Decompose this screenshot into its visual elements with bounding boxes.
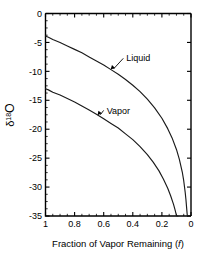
y-tick-label: -15 (29, 95, 42, 105)
y-tick-label: -10 (29, 67, 42, 77)
annotation-label: Vapor (107, 106, 130, 116)
y-tick-label: -5 (34, 38, 42, 48)
svg-text:Fraction of Vapor Remaining (f: Fraction of Vapor Remaining (f) (52, 238, 184, 249)
y-tick-label: -20 (29, 124, 42, 134)
y-tick-label: -25 (29, 153, 42, 163)
figure-container: 10.80.60.40.20 0-5-10-15-20-25-30-35 Liq… (0, 0, 203, 260)
x-axis-title: Fraction of Vapor Remaining (f) (52, 238, 184, 249)
x-tick-label: 0.2 (156, 219, 169, 229)
x-tick-label: 0 (188, 219, 193, 229)
x-tick-label: 0.6 (97, 219, 110, 229)
rayleigh-distillation-chart: 10.80.60.40.20 0-5-10-15-20-25-30-35 Liq… (0, 0, 203, 260)
x-tick-label: 1 (43, 219, 48, 229)
y-tick-label: -30 (29, 182, 42, 192)
y-tick-label: 0 (37, 9, 42, 19)
y-tick-label: -35 (29, 211, 42, 221)
annotation-label: Liquid (126, 53, 150, 63)
x-tick-label: 0.4 (127, 219, 140, 229)
x-tick-label: 0.8 (68, 219, 81, 229)
